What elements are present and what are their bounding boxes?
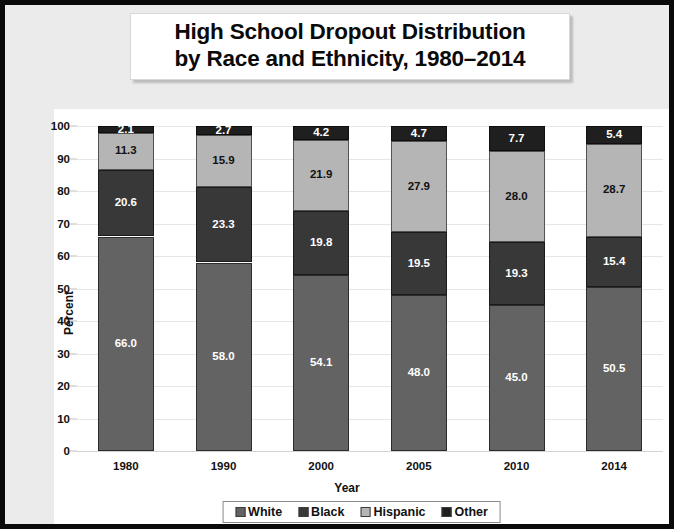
bar-segment-hispanic[interactable]: 27.9 — [391, 141, 447, 232]
y-axis-tick-label: 50 — [57, 283, 70, 295]
bar-segment-value-label: 45.0 — [505, 372, 527, 384]
chart-title-line-2: by Race and Ethnicity, 1980–2014 — [141, 45, 559, 72]
bar-segment-hispanic[interactable]: 28.7 — [586, 144, 642, 237]
bar-segment-black[interactable]: 20.6 — [98, 170, 154, 237]
y-axis-tick-mark — [70, 126, 77, 127]
bar-stack: 48.019.527.94.7 — [391, 126, 447, 451]
bar-segment-white[interactable]: 45.0 — [489, 305, 545, 451]
y-axis-tick-mark — [70, 418, 77, 419]
legend-item-label: Black — [311, 505, 344, 519]
bar-group[interactable]: 58.023.315.92.71990 — [196, 126, 252, 451]
bar-segment-value-label: 27.9 — [408, 181, 430, 193]
y-axis-tick-mark — [70, 191, 77, 192]
y-axis-tick-mark — [70, 256, 77, 257]
chart-legend: WhiteBlackHispanicOther — [222, 501, 501, 523]
bar-segment-value-label: 54.1 — [310, 357, 332, 369]
bar-segment-white[interactable]: 54.1 — [293, 275, 349, 451]
bar-group[interactable]: 54.119.821.94.22000 — [293, 126, 349, 451]
gridline — [77, 256, 663, 257]
bar-segment-other[interactable]: 4.7 — [391, 126, 447, 141]
bar-group[interactable]: 50.515.428.75.42014 — [586, 126, 642, 451]
bar-segment-value-label: 50.5 — [603, 363, 625, 375]
bar-segment-black[interactable]: 15.4 — [586, 237, 642, 287]
gridline — [77, 354, 663, 355]
bar-segment-value-label: 19.5 — [408, 258, 430, 270]
bar-segment-other[interactable]: 5.4 — [586, 126, 642, 144]
bar-segment-white[interactable]: 50.5 — [586, 287, 642, 451]
bar-stack: 58.023.315.92.7 — [196, 126, 252, 451]
y-axis-tick-label: 60 — [57, 250, 70, 262]
bar-segment-other[interactable]: 7.7 — [489, 126, 545, 151]
bar-segment-value-label: 4.7 — [411, 128, 427, 140]
bar-segment-black[interactable]: 19.5 — [391, 232, 447, 295]
bar-segment-value-label: 28.7 — [603, 184, 625, 196]
bar-segment-white[interactable]: 66.0 — [98, 237, 154, 452]
legend-swatch-icon — [442, 507, 452, 517]
bar-segment-black[interactable]: 19.3 — [489, 242, 545, 305]
plot-area: 0102030405060708090100 66.020.611.32.119… — [77, 126, 663, 451]
bar-segment-value-label: 15.4 — [603, 256, 625, 268]
y-axis-tick-label: 10 — [57, 413, 70, 425]
gridline — [77, 191, 663, 192]
bar-segment-black[interactable]: 19.8 — [293, 211, 349, 275]
bar-segment-other[interactable]: 2.7 — [196, 126, 252, 135]
gridline — [77, 419, 663, 420]
legend-item-label: Other — [455, 505, 488, 519]
y-axis-tick-label: 40 — [57, 315, 70, 327]
y-axis-tick-label: 30 — [57, 348, 70, 360]
y-axis-title: Percent — [62, 291, 76, 335]
bar-segment-other[interactable]: 4.2 — [293, 126, 349, 140]
y-axis-tick-mark — [70, 353, 77, 354]
bar-segment-hispanic[interactable]: 21.9 — [293, 140, 349, 211]
bar-segment-value-label: 48.0 — [408, 367, 430, 379]
gridline — [77, 451, 663, 452]
bar-segment-value-label: 19.8 — [310, 237, 332, 249]
y-axis-tick-label: 70 — [57, 218, 70, 230]
x-axis-tick-label: 2010 — [489, 460, 545, 472]
y-axis-tick-label: 90 — [57, 153, 70, 165]
legend-item-black[interactable]: Black — [298, 505, 344, 519]
y-axis-tick-mark — [70, 223, 77, 224]
chart-plot-panel: Percent 0102030405060708090100 66.020.61… — [54, 109, 669, 525]
bar-segment-white[interactable]: 58.0 — [196, 263, 252, 452]
chart-frame: High School Dropout Distribution by Race… — [0, 0, 674, 529]
bar-segment-black[interactable]: 23.3 — [196, 187, 252, 263]
gridline — [77, 386, 663, 387]
bar-segment-hispanic[interactable]: 11.3 — [98, 133, 154, 170]
chart-title: High School Dropout Distribution by Race… — [130, 13, 570, 80]
bar-stack: 54.119.821.94.2 — [293, 126, 349, 451]
bar-segment-hispanic[interactable]: 28.0 — [489, 151, 545, 242]
bar-stack: 66.020.611.32.1 — [98, 126, 154, 451]
x-axis-tick-label: 1980 — [98, 460, 154, 472]
bar-segment-other[interactable]: 2.1 — [98, 126, 154, 133]
legend-swatch-icon — [298, 507, 308, 517]
gridline — [77, 159, 663, 160]
y-axis-tick-label: 80 — [57, 185, 70, 197]
bar-segment-value-label: 66.0 — [115, 338, 137, 350]
y-axis-tick-mark — [70, 288, 77, 289]
bar-group[interactable]: 45.019.328.07.72010 — [489, 126, 545, 451]
bar-segment-hispanic[interactable]: 15.9 — [196, 135, 252, 187]
legend-swatch-icon — [235, 507, 245, 517]
y-axis-tick-label: 20 — [57, 380, 70, 392]
gridline — [77, 321, 663, 322]
bar-stack: 50.515.428.75.4 — [586, 126, 642, 451]
legend-item-label: White — [248, 505, 282, 519]
legend-item-white[interactable]: White — [235, 505, 282, 519]
legend-swatch-icon — [360, 507, 370, 517]
x-axis-tick-label: 2014 — [586, 460, 642, 472]
bar-group[interactable]: 48.019.527.94.72005 — [391, 126, 447, 451]
legend-item-other[interactable]: Other — [442, 505, 488, 519]
legend-item-label: Hispanic — [373, 505, 425, 519]
bar-segment-value-label: 58.0 — [212, 351, 234, 363]
x-axis-tick-label: 2005 — [391, 460, 447, 472]
gridline — [77, 224, 663, 225]
gridline — [77, 289, 663, 290]
y-axis-tick-mark — [70, 321, 77, 322]
legend-item-hispanic[interactable]: Hispanic — [360, 505, 425, 519]
bar-segment-value-label: 2.7 — [216, 125, 232, 137]
bar-segment-white[interactable]: 48.0 — [391, 295, 447, 451]
y-axis-tick-mark — [70, 451, 77, 452]
bar-group[interactable]: 66.020.611.32.11980 — [98, 126, 154, 451]
bar-stack: 45.019.328.07.7 — [489, 126, 545, 451]
